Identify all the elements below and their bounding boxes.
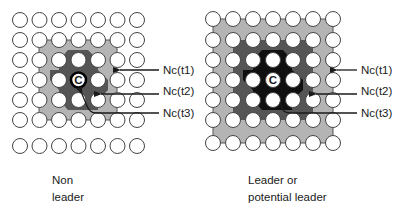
node-circle	[246, 136, 261, 151]
node-circle	[52, 139, 67, 154]
node-circle	[246, 73, 261, 88]
node-circle	[110, 113, 125, 128]
node-circle	[306, 73, 321, 88]
node-circle	[71, 53, 86, 68]
node-circle	[326, 136, 341, 151]
node-circle	[246, 12, 261, 27]
node-circle	[306, 33, 321, 48]
node-circle	[206, 73, 221, 88]
caption-line-1: Non	[52, 172, 84, 189]
node-circle	[206, 12, 221, 27]
node-circle	[52, 93, 67, 108]
caption-leader: Leader or potential leader	[248, 172, 327, 206]
node-circle	[13, 139, 28, 154]
label-nc-t3: Nc(t3)	[361, 107, 392, 119]
node-circle	[91, 53, 106, 68]
node-circle	[52, 113, 67, 128]
node-circle	[13, 113, 28, 128]
node-circle	[13, 93, 28, 108]
node-circle	[326, 33, 341, 48]
node-circle	[226, 136, 241, 151]
node-circle	[52, 13, 67, 28]
label-nc-t1: Nc(t1)	[361, 64, 392, 76]
node-circle	[306, 12, 321, 27]
node-circle	[13, 33, 28, 48]
node-circle	[266, 33, 281, 48]
node-circle	[91, 33, 106, 48]
node-circle	[130, 33, 145, 48]
node-circle	[226, 12, 241, 27]
node-circle	[32, 93, 47, 108]
node-circle	[326, 93, 341, 108]
node-circle	[52, 33, 67, 48]
node-circle	[306, 113, 321, 128]
node-circle	[110, 13, 125, 28]
node-circle	[266, 93, 281, 108]
node-circle	[286, 12, 301, 27]
node-circle	[206, 136, 221, 151]
node-circle	[110, 139, 125, 154]
label-nc-t1: Nc(t1)	[163, 64, 194, 76]
node-circle	[326, 53, 341, 68]
node-circle	[32, 113, 47, 128]
node-circle	[266, 136, 281, 151]
node-circle	[110, 33, 125, 48]
node-circle	[91, 13, 106, 28]
node-circle	[32, 139, 47, 154]
node-circle	[130, 13, 145, 28]
node-circle	[266, 113, 281, 128]
node-circle	[32, 73, 47, 88]
node-circle	[71, 33, 86, 48]
node-circle	[13, 13, 28, 28]
node-circle	[226, 73, 241, 88]
node-circle	[71, 93, 86, 108]
node-circle	[266, 12, 281, 27]
node-circle	[286, 93, 301, 108]
caption-line-1: Leader or	[248, 172, 327, 189]
node-circle	[32, 33, 47, 48]
node-circle	[326, 12, 341, 27]
node-circle	[52, 53, 67, 68]
node-circle	[71, 139, 86, 154]
node-circle	[326, 73, 341, 88]
node-circle	[32, 13, 47, 28]
center-label: C	[269, 74, 277, 86]
center-label: C	[74, 74, 82, 86]
node-circle	[226, 113, 241, 128]
node-circle	[226, 53, 241, 68]
label-nc-t2: Nc(t2)	[163, 85, 194, 97]
node-circle	[71, 13, 86, 28]
node-circle	[286, 113, 301, 128]
node-circle	[226, 93, 241, 108]
node-circle	[266, 53, 281, 68]
node-circle	[130, 73, 145, 88]
node-circle	[246, 33, 261, 48]
node-circle	[226, 33, 241, 48]
node-circle	[246, 93, 261, 108]
node-circle	[91, 113, 106, 128]
node-circle	[326, 113, 341, 128]
node-circle	[32, 53, 47, 68]
node-circle	[206, 53, 221, 68]
node-circle	[306, 93, 321, 108]
node-circle	[52, 73, 67, 88]
panel-non-leader: C Nc(t1) Nc(t2) Nc(t3)	[13, 13, 195, 154]
node-circle	[206, 33, 221, 48]
caption-line-2: leader	[52, 189, 84, 206]
node-circle	[13, 73, 28, 88]
node-circle	[130, 53, 145, 68]
node-circle	[110, 53, 125, 68]
panel-leader: C Nc(t1) Nc(t2) Nc(t3)	[206, 12, 393, 151]
node-circle	[130, 113, 145, 128]
node-circle	[71, 113, 86, 128]
node-circle	[91, 139, 106, 154]
node-circle	[246, 113, 261, 128]
node-circle	[206, 113, 221, 128]
node-circle	[286, 53, 301, 68]
node-circle	[286, 136, 301, 151]
node-circle	[206, 93, 221, 108]
node-circle	[91, 73, 106, 88]
node-circle	[286, 73, 301, 88]
node-circle	[306, 136, 321, 151]
node-circle	[130, 139, 145, 154]
